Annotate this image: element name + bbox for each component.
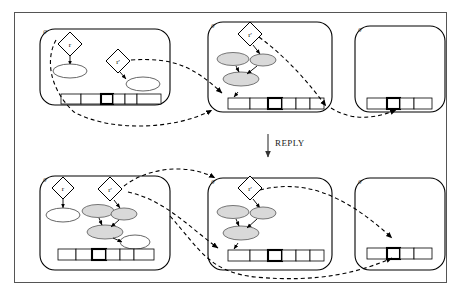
tape xyxy=(228,98,324,109)
figure-root: g r r' g r' xyxy=(0,0,461,295)
ellipse-node xyxy=(53,64,87,78)
tape-cell-active xyxy=(92,249,106,260)
panel-corner-label: g xyxy=(358,25,362,33)
panel-corner-label: g xyxy=(43,175,47,183)
ellipse-node xyxy=(120,235,150,249)
tape xyxy=(367,248,432,259)
panel-corner-label: g xyxy=(43,27,47,35)
tape xyxy=(228,250,324,261)
tape xyxy=(61,94,161,104)
reply-label: REPLY xyxy=(275,138,305,148)
diamond-label: r' xyxy=(248,185,252,193)
panel-corner-label: g xyxy=(211,177,215,185)
ellipse-node xyxy=(217,206,249,219)
ellipse-node xyxy=(46,208,80,222)
ellipse-node xyxy=(82,205,114,218)
diamond-label: r' xyxy=(108,186,112,194)
ellipse-node xyxy=(250,54,276,66)
ellipse-node xyxy=(223,226,259,240)
ellipse-node xyxy=(111,208,137,220)
diamond-label: r' xyxy=(116,58,120,66)
ellipse-node xyxy=(126,77,160,91)
ellipse-node xyxy=(217,53,249,66)
ellipse-node xyxy=(250,207,276,219)
tape-cell-active xyxy=(268,250,282,261)
tape-cell-active xyxy=(387,248,400,259)
panel-corner-label: g xyxy=(211,21,215,29)
tape-cell-active xyxy=(101,94,113,104)
tape-cell-active xyxy=(268,98,282,109)
panel-corner-label: g xyxy=(358,177,362,185)
ellipse-node xyxy=(223,72,259,86)
tape xyxy=(58,249,154,260)
tape-cell-active xyxy=(387,98,400,109)
tape xyxy=(367,98,432,109)
diamond-label: r' xyxy=(248,31,252,39)
reply-transition-diagram: g r r' g r' xyxy=(0,0,461,295)
ellipse-node xyxy=(87,225,123,239)
